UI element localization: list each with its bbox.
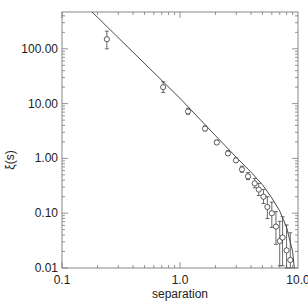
data-point [252, 181, 257, 186]
y-tick-label: 100.00 [21, 42, 58, 56]
x-tick-label: 1.0 [172, 273, 189, 287]
data-point [265, 204, 270, 209]
fit-line [92, 12, 294, 268]
correlation-chart: 0.11.010.00.010.101.0010.00100.00 separa… [0, 0, 308, 305]
data-point [225, 151, 230, 156]
data-point [104, 37, 109, 42]
x-tick-label: 0.1 [54, 273, 71, 287]
data-point [239, 167, 244, 172]
data-point [245, 174, 250, 179]
x-tick-label: 10.0 [286, 273, 308, 287]
data-point [280, 235, 285, 240]
data-point [284, 248, 289, 253]
data-point [288, 257, 293, 262]
x-axis-title: separation [152, 287, 208, 301]
y-tick-label: 0.01 [35, 261, 59, 275]
data-point [202, 126, 207, 131]
data-point [261, 194, 266, 199]
axis-ticks [62, 12, 298, 268]
y-tick-label: 10.00 [28, 97, 58, 111]
data-point [269, 211, 274, 216]
y-axis-title: ξ(s) [3, 150, 17, 169]
data-point [161, 85, 166, 90]
y-tick-label: 1.00 [35, 151, 59, 165]
data-points [104, 31, 293, 268]
data-point [273, 224, 278, 229]
y-tick-label: 0.10 [35, 206, 59, 220]
data-point [214, 140, 219, 145]
data-point [185, 109, 190, 114]
tick-labels: 0.11.010.00.010.101.0010.00100.00 [21, 42, 308, 287]
data-point [233, 158, 238, 163]
data-point [256, 187, 261, 192]
plot-axes [62, 12, 298, 268]
